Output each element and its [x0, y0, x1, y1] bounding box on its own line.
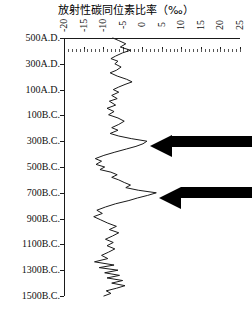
y-tick-mark	[60, 296, 64, 297]
x-minor-tick	[236, 49, 237, 52]
x-minor-tick	[189, 49, 190, 52]
x-minor-tick	[228, 49, 229, 52]
x-minor-tick	[138, 49, 139, 52]
y-tick-mark	[60, 244, 64, 245]
x-minor-tick	[127, 49, 128, 52]
arrow-shaft	[181, 187, 252, 198]
x-minor-tick	[174, 49, 175, 52]
y-tick-mark	[60, 141, 64, 142]
y-tick-mark	[60, 193, 64, 194]
y-tick-label: 900B.C.	[27, 213, 60, 225]
arrow-head-icon	[159, 187, 181, 209]
y-axis-line	[64, 38, 65, 296]
x-minor-tick	[146, 49, 147, 52]
x-minor-tick	[84, 49, 85, 52]
y-tick-label: 100A.D.	[26, 84, 60, 96]
x-minor-tick	[142, 49, 143, 52]
x-minor-tick	[205, 49, 206, 52]
y-tick-label: 1300B.C.	[22, 264, 60, 276]
x-minor-tick	[217, 49, 218, 52]
y-tick-mark	[60, 115, 64, 116]
x-minor-tick	[80, 49, 81, 52]
x-minor-tick	[95, 49, 96, 52]
y-tick-mark	[60, 270, 64, 271]
y-tick-mark	[60, 38, 64, 39]
x-minor-tick	[119, 49, 120, 52]
x-minor-tick	[224, 49, 225, 52]
x-minor-tick	[130, 49, 131, 52]
y-tick-mark	[60, 167, 64, 168]
x-minor-tick	[91, 49, 92, 52]
y-tick-label: 300A.D.	[26, 58, 60, 70]
arrow-head-icon	[150, 135, 172, 157]
x-minor-tick	[111, 49, 112, 52]
x-minor-tick	[197, 49, 198, 52]
y-tick-label: 300B.C.	[27, 135, 60, 147]
y-tick-label: 100B.C.	[27, 109, 60, 121]
x-tick-label: 0	[131, 14, 153, 36]
x-minor-tick	[220, 49, 221, 52]
x-axis-line	[64, 38, 240, 39]
x-minor-tick	[154, 49, 155, 52]
y-tick-label: 500A.D.	[26, 32, 60, 44]
y-tick-mark	[60, 90, 64, 91]
x-minor-tick	[103, 49, 104, 52]
x-minor-tick	[213, 49, 214, 52]
x-minor-tick	[99, 49, 100, 52]
y-tick-label: 700B.C.	[27, 187, 60, 199]
x-minor-tick	[87, 49, 88, 52]
x-minor-tick	[170, 49, 171, 52]
x-minor-tick	[185, 49, 186, 52]
y-tick-label: 1500B.C.	[22, 290, 60, 302]
x-minor-tick	[181, 49, 182, 52]
x-minor-tick	[193, 49, 194, 52]
x-minor-tick	[123, 49, 124, 52]
y-tick-mark	[60, 64, 64, 65]
x-minor-tick	[72, 49, 73, 52]
x-minor-tick	[232, 49, 233, 52]
x-minor-tick	[158, 49, 159, 52]
x-minor-tick	[240, 49, 241, 52]
x-minor-tick	[166, 49, 167, 52]
x-minor-tick	[177, 49, 178, 52]
x-minor-tick	[201, 49, 202, 52]
radiocarbon-chart-figure: 放射性碳同位素比率（‰） -20-15-10-50510152025 500A.…	[0, 0, 252, 309]
y-tick-label: 1100B.C.	[22, 238, 60, 250]
x-tick-label: 25	[229, 14, 251, 36]
x-minor-tick	[76, 49, 77, 52]
y-tick-mark	[60, 219, 64, 220]
x-minor-tick	[68, 49, 69, 52]
x-minor-tick	[107, 49, 108, 52]
y-tick-label: 500B.C.	[27, 161, 60, 173]
x-minor-tick	[115, 49, 116, 52]
x-tick-label: -10	[92, 14, 114, 36]
arrow-shaft	[172, 136, 252, 147]
x-minor-tick	[209, 49, 210, 52]
y-axis-labels: 500A.D.300A.D.100A.D.100B.C.300B.C.500B.…	[0, 0, 64, 309]
x-minor-tick	[150, 49, 151, 52]
x-minor-tick	[162, 49, 163, 52]
x-minor-tick	[134, 49, 135, 52]
